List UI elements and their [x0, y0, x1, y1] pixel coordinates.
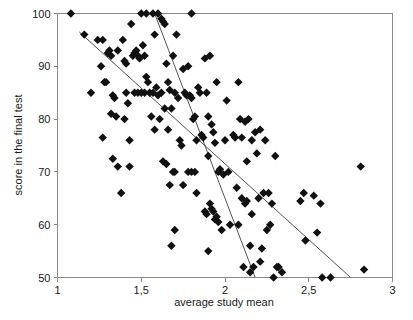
y-axis-ticks	[54, 14, 58, 278]
data-point-marker	[238, 133, 246, 141]
data-point-marker	[102, 78, 110, 86]
data-point-marker	[80, 30, 88, 38]
data-point-marker	[179, 181, 187, 189]
data-point-marker	[167, 242, 175, 250]
y-axis-tick-labels: 5060708090100	[32, 8, 50, 284]
data-point-marker	[204, 247, 212, 255]
data-point-marker	[271, 152, 279, 160]
data-point-marker	[243, 157, 251, 165]
data-point-marker	[99, 36, 107, 44]
data-point-marker	[269, 273, 277, 281]
data-point-marker	[192, 189, 200, 197]
data-point-marker	[207, 120, 215, 128]
data-point-marker	[300, 189, 308, 197]
data-point-marker	[97, 62, 105, 70]
data-point-marker	[120, 115, 128, 123]
data-point-marker	[127, 20, 135, 28]
data-point-marker	[99, 133, 107, 141]
data-point-marker	[258, 244, 266, 252]
data-point-marker	[172, 30, 180, 38]
y-tick-label: 60	[38, 219, 50, 231]
data-point-marker	[268, 199, 276, 207]
data-point-marker	[209, 128, 217, 136]
data-point-marker	[150, 30, 158, 38]
data-point-marker	[234, 221, 242, 229]
data-point-marker	[109, 155, 117, 163]
data-point-marker	[155, 115, 163, 123]
data-point-marker	[261, 136, 269, 144]
steep-regression-line	[155, 14, 256, 278]
data-point-marker	[164, 125, 172, 133]
data-point-marker	[204, 112, 212, 120]
data-point-marker	[226, 221, 234, 229]
data-point-marker	[248, 136, 256, 144]
data-point-marker	[310, 191, 318, 199]
data-point-marker	[167, 104, 175, 112]
data-point-marker	[147, 112, 155, 120]
data-point-marker	[256, 257, 264, 265]
x-tick-label: 3	[389, 284, 395, 296]
data-point-marker	[171, 168, 179, 176]
data-point-marker	[87, 89, 95, 97]
data-point-marker	[150, 125, 158, 133]
data-point-marker	[114, 162, 122, 170]
data-point-marker	[318, 273, 326, 281]
data-point-marker	[239, 263, 247, 271]
data-points-group	[67, 9, 369, 281]
data-point-marker	[253, 149, 261, 157]
y-tick-label: 70	[38, 166, 50, 178]
data-point-marker	[117, 189, 125, 197]
data-point-marker	[139, 41, 147, 49]
data-point-marker	[254, 194, 262, 202]
x-axis-tick-labels: 11,522,53	[54, 284, 395, 296]
data-point-marker	[202, 89, 210, 97]
data-point-marker	[326, 273, 334, 281]
data-point-marker	[166, 181, 174, 189]
y-tick-label: 50	[38, 272, 50, 284]
data-point-marker	[248, 210, 256, 218]
shallow-regression-line	[79, 32, 350, 278]
data-point-marker	[217, 226, 225, 234]
scatter-chart: 11,522,53 5060708090100 average study me…	[0, 0, 413, 320]
x-tick-label: 2,5	[301, 284, 316, 296]
data-point-marker	[246, 242, 254, 250]
data-point-marker	[171, 226, 179, 234]
data-point-marker	[204, 152, 212, 160]
data-point-marker	[124, 99, 132, 107]
data-point-marker	[301, 236, 309, 244]
data-point-marker	[119, 36, 127, 44]
data-point-marker	[316, 199, 324, 207]
x-tick-label: 1	[54, 284, 60, 296]
data-point-marker	[222, 96, 230, 104]
x-axis-ticks	[58, 278, 393, 282]
data-point-marker	[114, 46, 122, 54]
data-point-marker	[67, 9, 75, 17]
x-tick-label: 2	[222, 284, 228, 296]
data-point-marker	[221, 136, 229, 144]
data-point-marker	[234, 78, 242, 86]
data-point-marker	[211, 139, 219, 147]
data-point-marker	[164, 78, 172, 86]
data-point-marker	[264, 189, 272, 197]
y-axis-title: score in the final test	[12, 95, 24, 196]
x-axis-title: average study mean	[174, 296, 274, 308]
data-point-marker	[296, 197, 304, 205]
data-point-marker	[233, 184, 241, 192]
data-point-marker	[122, 89, 130, 97]
data-point-marker	[356, 162, 364, 170]
data-point-marker	[162, 59, 170, 67]
data-point-marker	[360, 265, 368, 273]
data-point-marker	[125, 162, 133, 170]
y-tick-label: 90	[38, 60, 50, 72]
data-point-marker	[212, 78, 220, 86]
y-tick-label: 80	[38, 113, 50, 125]
data-point-marker	[187, 9, 195, 17]
data-point-marker	[125, 136, 133, 144]
data-point-marker	[313, 228, 321, 236]
plot-canvas: 11,522,53 5060708090100 average study me…	[0, 0, 413, 320]
x-tick-label: 1,5	[134, 284, 149, 296]
y-tick-label: 100	[32, 8, 50, 20]
